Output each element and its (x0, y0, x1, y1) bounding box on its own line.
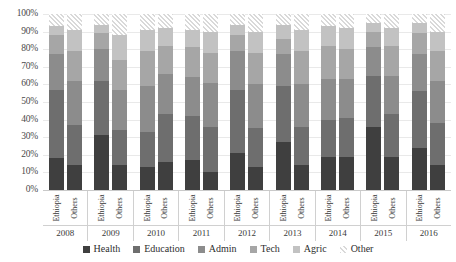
segment-other[interactable] (412, 14, 427, 23)
bar-2010-others[interactable] (158, 14, 173, 190)
segment-health[interactable] (412, 148, 427, 190)
segment-health[interactable] (248, 167, 263, 190)
segment-health[interactable] (384, 157, 399, 190)
segment-tech[interactable] (321, 46, 336, 79)
segment-tech[interactable] (294, 51, 309, 84)
segment-tech[interactable] (412, 33, 427, 54)
segment-admin[interactable] (140, 86, 155, 132)
segment-education[interactable] (412, 91, 427, 147)
segment-health[interactable] (339, 157, 354, 190)
segment-tech[interactable] (248, 53, 263, 85)
segment-health[interactable] (67, 165, 82, 190)
segment-education[interactable] (203, 127, 218, 173)
segment-agric[interactable] (112, 35, 127, 60)
segment-agric[interactable] (366, 23, 381, 32)
segment-admin[interactable] (384, 76, 399, 115)
segment-tech[interactable] (366, 32, 381, 48)
segment-admin[interactable] (67, 81, 82, 125)
segment-tech[interactable] (140, 51, 155, 86)
segment-agric[interactable] (276, 25, 291, 39)
segment-health[interactable] (294, 165, 309, 190)
segment-other[interactable] (321, 14, 336, 26)
segment-health[interactable] (321, 157, 336, 190)
segment-other[interactable] (140, 14, 155, 30)
segment-admin[interactable] (112, 90, 127, 130)
legend-item-agric[interactable]: Agric (293, 244, 327, 254)
segment-education[interactable] (339, 118, 354, 157)
segment-agric[interactable] (248, 32, 263, 53)
segment-education[interactable] (158, 114, 173, 162)
bar-2011-ethiopia[interactable] (185, 14, 200, 190)
segment-admin[interactable] (339, 79, 354, 118)
bar-2013-others[interactable] (294, 14, 309, 190)
segment-other[interactable] (203, 14, 218, 32)
segment-health[interactable] (158, 162, 173, 190)
bar-2008-others[interactable] (67, 14, 82, 190)
segment-admin[interactable] (366, 47, 381, 75)
legend-item-admin[interactable]: Admin (198, 244, 237, 254)
segment-tech[interactable] (94, 33, 109, 49)
segment-tech[interactable] (49, 35, 64, 54)
bar-2009-ethiopia[interactable] (94, 14, 109, 190)
bar-2016-others[interactable] (430, 14, 445, 190)
segment-tech[interactable] (67, 51, 82, 81)
segment-agric[interactable] (158, 28, 173, 46)
bar-2014-ethiopia[interactable] (321, 14, 336, 190)
bar-2015-ethiopia[interactable] (366, 14, 381, 190)
bar-2015-others[interactable] (384, 14, 399, 190)
segment-other[interactable] (49, 14, 64, 26)
legend-item-education[interactable]: Education (133, 244, 185, 254)
segment-other[interactable] (158, 14, 173, 28)
segment-other[interactable] (185, 14, 200, 30)
segment-admin[interactable] (185, 77, 200, 116)
segment-admin[interactable] (49, 54, 64, 89)
segment-health[interactable] (112, 165, 127, 190)
bar-2009-others[interactable] (112, 14, 127, 190)
bar-2008-ethiopia[interactable] (49, 14, 64, 190)
segment-health[interactable] (430, 165, 445, 190)
segment-agric[interactable] (140, 30, 155, 51)
segment-health[interactable] (276, 142, 291, 190)
bar-2012-others[interactable] (248, 14, 263, 190)
legend-item-health[interactable]: Health (83, 244, 121, 254)
segment-agric[interactable] (294, 30, 309, 51)
segment-education[interactable] (94, 81, 109, 136)
segment-agric[interactable] (321, 26, 336, 45)
segment-agric[interactable] (412, 23, 427, 34)
segment-admin[interactable] (430, 81, 445, 123)
segment-health[interactable] (185, 160, 200, 190)
segment-other[interactable] (94, 14, 109, 25)
segment-tech[interactable] (203, 53, 218, 83)
segment-admin[interactable] (248, 84, 263, 128)
segment-other[interactable] (339, 14, 354, 28)
segment-admin[interactable] (230, 51, 245, 90)
segment-admin[interactable] (412, 54, 427, 91)
segment-tech[interactable] (230, 35, 245, 51)
segment-other[interactable] (248, 14, 263, 32)
segment-admin[interactable] (276, 54, 291, 86)
segment-education[interactable] (276, 86, 291, 142)
bar-2013-ethiopia[interactable] (276, 14, 291, 190)
segment-education[interactable] (366, 76, 381, 127)
segment-education[interactable] (112, 130, 127, 165)
segment-tech[interactable] (430, 51, 445, 81)
segment-admin[interactable] (158, 74, 173, 114)
segment-tech[interactable] (276, 39, 291, 55)
segment-education[interactable] (321, 120, 336, 157)
segment-other[interactable] (230, 14, 245, 25)
segment-health[interactable] (203, 172, 218, 190)
segment-agric[interactable] (203, 32, 218, 53)
segment-other[interactable] (294, 14, 309, 30)
segment-admin[interactable] (294, 84, 309, 126)
bar-2012-ethiopia[interactable] (230, 14, 245, 190)
segment-education[interactable] (67, 125, 82, 165)
segment-education[interactable] (294, 127, 309, 166)
segment-agric[interactable] (430, 32, 445, 51)
segment-education[interactable] (430, 123, 445, 165)
segment-agric[interactable] (230, 25, 245, 36)
segment-other[interactable] (276, 14, 291, 25)
bar-2011-others[interactable] (203, 14, 218, 190)
legend-item-other[interactable]: Other (340, 244, 374, 254)
segment-education[interactable] (248, 128, 263, 167)
segment-tech[interactable] (112, 60, 127, 90)
